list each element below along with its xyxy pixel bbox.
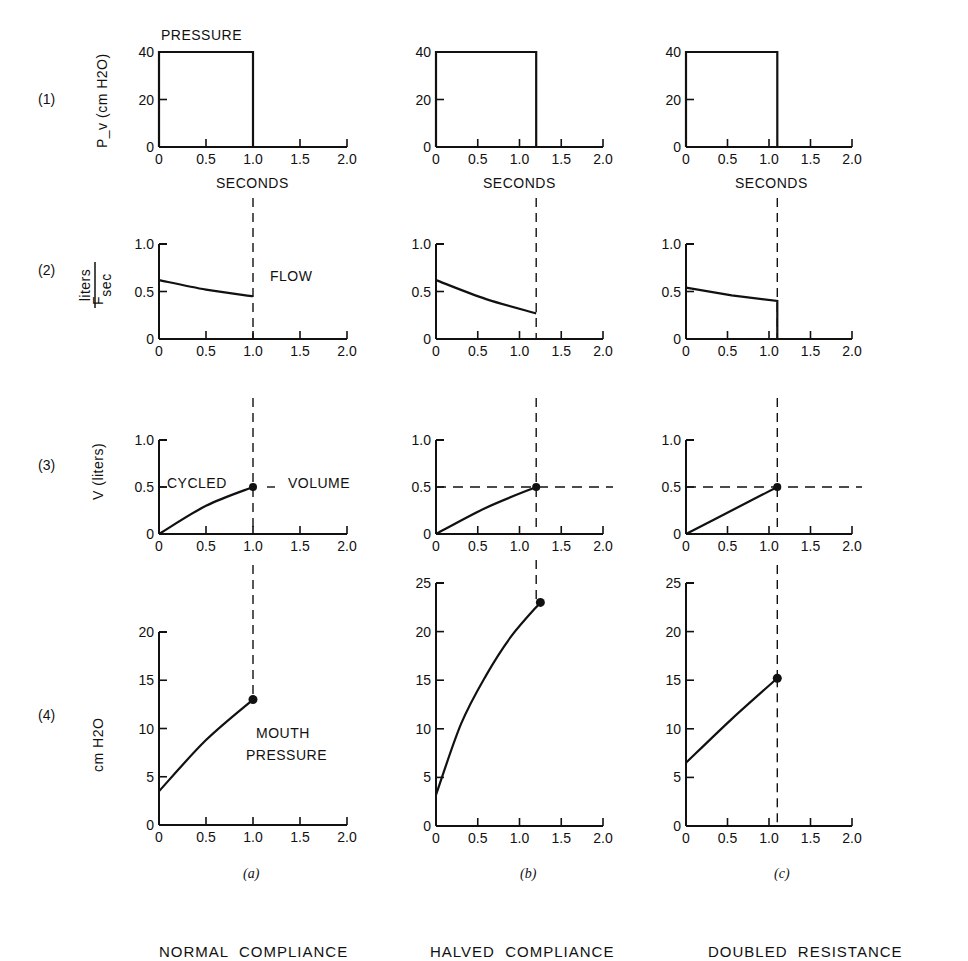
y-axis-label-row2: F liters sec: [77, 262, 114, 308]
x-tick-label: 0.5: [196, 829, 216, 845]
y-tick-label: 40: [138, 44, 154, 60]
x-tick-label: 1.5: [801, 343, 821, 359]
y-tick-label: 10: [665, 721, 681, 737]
x-tick-label: 2.0: [337, 343, 357, 359]
y-tick-label: 0.5: [412, 284, 432, 300]
x-tick-label: 2.0: [842, 343, 862, 359]
x-tick-label: 0.5: [196, 538, 216, 554]
endpoint-marker: [532, 483, 540, 491]
x-tick-label: 0.5: [196, 343, 216, 359]
x-tick-label: 1.5: [801, 830, 821, 846]
y-tick-label: 20: [138, 624, 154, 640]
panel-a4: 00.51.01.52.005101520: [138, 565, 357, 845]
caption-a-line1: NORMAL COMPLIANCE: [159, 942, 348, 961]
x-tick-label: 1.5: [290, 151, 310, 167]
x-tick-label: 1.0: [510, 343, 530, 359]
y-tick-label: 5: [423, 769, 431, 785]
y-axis-label-row3: V (liters): [90, 443, 106, 500]
annotation-mouth-pressure: PRESSURE: [246, 747, 327, 763]
y-tick-label: 0: [146, 331, 154, 347]
x-tick-label: 2.0: [842, 151, 862, 167]
x-tick-label: 0: [682, 343, 690, 359]
endpoint-marker: [536, 598, 545, 607]
panel-b2: 00.51.01.52.000.51.0: [412, 198, 613, 359]
y-tick-label: 0.5: [135, 284, 155, 300]
caption-c-line1: DOUBLED RESISTANCE: [708, 942, 903, 961]
x-tick-label: 0.5: [718, 343, 738, 359]
x-tick-label: 0.5: [468, 151, 488, 167]
column-caption-a: NORMAL COMPLIANCE NORMAL RESISTANCE: [159, 904, 348, 961]
y-tick-label: 0: [673, 526, 681, 542]
annotation-volume: VOLUME: [288, 475, 350, 491]
series-line: [436, 52, 536, 147]
series-line: [159, 280, 253, 296]
y-tick-label: 20: [415, 624, 431, 640]
y-tick-label: 20: [138, 92, 154, 108]
y-tick-label: 5: [146, 769, 154, 785]
annotation-flow: FLOW: [270, 268, 313, 284]
x-tick-label: 1.0: [759, 830, 779, 846]
row-label-4: (4): [38, 707, 55, 723]
endpoint-marker: [249, 695, 258, 704]
panel-b3: 00.51.01.52.000.51.0: [412, 398, 613, 554]
x-tick-label: 2.0: [593, 538, 613, 554]
y-tick-label: 15: [138, 672, 154, 688]
column-caption-b: HALVED COMPLIANCE NORMAL RESISTANCE: [430, 904, 615, 961]
panel-c3: 00.51.01.52.000.51.0: [662, 398, 862, 554]
x-tick-label: 1.0: [243, 538, 263, 554]
caption-b-line1: HALVED COMPLIANCE: [430, 942, 615, 961]
x-tick-label: 0.5: [468, 343, 488, 359]
x-tick-label: 0: [682, 538, 690, 554]
annotation-mouth: MOUTH: [256, 725, 310, 741]
x-tick-label: 0: [682, 151, 690, 167]
panel-b1: 00.51.01.52.002040: [415, 44, 613, 167]
y-tick-label: 0.5: [662, 284, 682, 300]
y-tick-label: 0: [423, 139, 431, 155]
chart-panels: 00.51.01.52.00204000.51.01.52.00204000.5…: [135, 44, 862, 846]
y-tick-label: 1.0: [662, 432, 682, 448]
x-tick-label: 2.0: [593, 151, 613, 167]
column-sublabel-b: (b): [520, 866, 536, 882]
x-tick-label: 2.0: [337, 538, 357, 554]
column-sublabel-c: (c): [774, 866, 790, 882]
endpoint-marker: [773, 674, 782, 683]
x-tick-label: 0: [155, 151, 163, 167]
annotation-seconds-c: SECONDS: [735, 175, 808, 191]
x-tick-label: 1.5: [290, 538, 310, 554]
y-tick-label: 0: [423, 526, 431, 542]
y-tick-label: 25: [415, 575, 431, 591]
x-tick-label: 0.5: [718, 151, 738, 167]
x-tick-label: 0: [155, 829, 163, 845]
y-tick-label: 0.5: [135, 479, 155, 495]
ventilator-waveform-figure: (1) (2) (3) (4) P_v (cm H2O) F liters se…: [0, 0, 968, 961]
panel-b4: 00.51.01.52.00510152025: [415, 560, 613, 846]
y-tick-label: 10: [415, 721, 431, 737]
y-tick-label: 40: [415, 44, 431, 60]
series-line: [436, 280, 536, 313]
x-tick-label: 1.0: [243, 151, 263, 167]
x-tick-label: 1.5: [801, 538, 821, 554]
y-tick-label: 0.5: [662, 479, 682, 495]
series-line: [159, 700, 253, 792]
svg-text:liters: liters: [77, 269, 93, 302]
series-line: [686, 487, 777, 534]
x-tick-label: 0: [155, 343, 163, 359]
x-tick-label: 1.5: [552, 830, 572, 846]
x-tick-label: 0: [432, 830, 440, 846]
column-sublabel-a: (a): [243, 866, 259, 882]
x-tick-label: 1.0: [510, 830, 530, 846]
y-tick-label: 10: [138, 721, 154, 737]
panel-c2: 00.51.01.52.000.51.0: [662, 198, 862, 359]
x-tick-label: 2.0: [337, 829, 357, 845]
series-line: [436, 602, 540, 794]
y-tick-label: 20: [415, 92, 431, 108]
y-tick-label: 0: [673, 331, 681, 347]
y-tick-label: 0: [146, 139, 154, 155]
y-tick-label: 0: [423, 818, 431, 834]
x-tick-label: 0.5: [468, 538, 488, 554]
x-tick-label: 1.0: [243, 343, 263, 359]
x-tick-label: 2.0: [593, 830, 613, 846]
x-tick-label: 1.5: [552, 538, 572, 554]
y-tick-label: 0: [673, 139, 681, 155]
x-tick-label: 0: [432, 538, 440, 554]
